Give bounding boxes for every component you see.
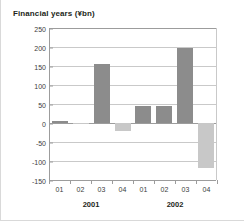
x-axis: 010203040102030420012002 (49, 180, 217, 220)
bar[interactable] (135, 106, 151, 123)
bar-slot (133, 28, 154, 180)
x-tick-mark (70, 180, 71, 184)
bar-slot (175, 28, 196, 180)
y-tick-label: 0 (42, 121, 46, 128)
bar-slot (50, 28, 71, 180)
bar-series (50, 28, 216, 180)
x-tick-mark (49, 180, 50, 184)
x-tick-mark (154, 180, 155, 184)
x-tick-label: 03 (98, 186, 106, 193)
x-tick-mark (196, 180, 197, 184)
bar-slot (195, 28, 216, 180)
x-tick-label: 01 (56, 186, 64, 193)
plot-area: 250200150100500-50-100-150 (49, 28, 217, 180)
chart-title: Financial years (¥bn) (13, 9, 95, 18)
bar[interactable] (177, 48, 193, 123)
y-tick-label: 200 (34, 45, 46, 52)
x-tick-mark (91, 180, 92, 184)
bar[interactable] (198, 123, 214, 168)
bar-slot (71, 28, 92, 180)
y-tick-label: 100 (34, 83, 46, 90)
y-tick-label: -150 (32, 178, 46, 185)
x-axis-group-label: 2001 (83, 200, 100, 209)
bar-slot (92, 28, 113, 180)
bar[interactable] (73, 123, 89, 124)
y-tick-label: 250 (34, 26, 46, 33)
x-tick-mark (175, 180, 176, 184)
x-tick-label: 03 (182, 186, 190, 193)
x-tick-mark (133, 180, 134, 184)
x-tick-label: 04 (203, 186, 211, 193)
bar-slot (154, 28, 175, 180)
x-axis-group-label: 2002 (167, 200, 184, 209)
y-tick-label: 150 (34, 64, 46, 71)
x-tick-label: 02 (77, 186, 85, 193)
bar[interactable] (52, 121, 68, 123)
y-tick-label: -100 (32, 159, 46, 166)
bar[interactable] (156, 106, 172, 123)
bar-slot (112, 28, 133, 180)
y-tick-label: -50 (36, 140, 46, 147)
x-tick-mark (112, 180, 113, 184)
y-tick-label: 50 (38, 102, 46, 109)
x-tick-label: 04 (119, 186, 127, 193)
bar[interactable] (115, 123, 131, 131)
x-tick-label: 02 (161, 186, 169, 193)
x-tick-label: 01 (140, 186, 148, 193)
chart-figure: Financial years (¥bn) 250200150100500-50… (0, 0, 244, 221)
x-tick-mark (217, 180, 218, 184)
bar[interactable] (94, 64, 110, 123)
